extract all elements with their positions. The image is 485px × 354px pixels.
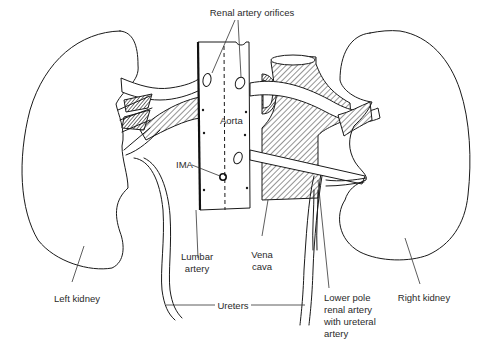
left-renal-vessels (118, 78, 200, 320)
label-ureters: Ureters (217, 300, 248, 311)
label-aorta: Aorta (220, 115, 243, 126)
label-lower-pole-1: Lower pole (324, 292, 370, 303)
label-vena-cava-2: cava (252, 261, 273, 272)
left-kidney-outline (22, 31, 138, 269)
left-kidney (22, 31, 138, 269)
labels: Renal artery orifices Aorta IMA Lumbar a… (54, 7, 450, 339)
label-right-kidney: Right kidney (398, 292, 451, 303)
label-lower-pole-3: with ureteral (323, 316, 376, 327)
label-left-kidney: Left kidney (54, 293, 100, 304)
left-ureter (134, 158, 175, 320)
label-ima: IMA (176, 159, 194, 170)
label-renal-artery-orifices: Renal artery orifices (210, 7, 295, 18)
label-vena-cava-1: Vena (251, 249, 273, 260)
renal-anatomy-diagram: Renal artery orifices Aorta IMA Lumbar a… (0, 0, 485, 354)
label-lower-pole-4: artery (324, 328, 349, 339)
vena-cava (250, 55, 380, 200)
label-lumbar-artery-1: Lumbar (181, 251, 213, 262)
right-kidney-outline (340, 31, 470, 260)
aorta (198, 42, 250, 210)
right-kidney (340, 31, 470, 260)
label-lumbar-artery-2: artery (185, 263, 210, 274)
label-lower-pole-2: renal artery (324, 304, 372, 315)
